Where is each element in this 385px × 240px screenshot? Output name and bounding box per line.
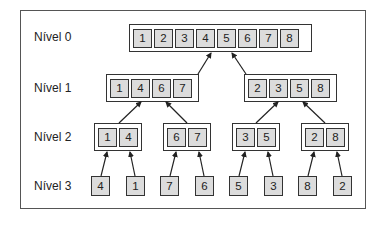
cell: 1 [133,29,152,48]
cell: 4 [196,29,215,48]
leaf-cell: 8 [298,176,317,196]
cell: 1 [110,79,129,98]
cell: 8 [280,29,299,48]
level-0-label: Nível 0 [34,30,71,44]
leaf-cell: 2 [333,176,352,196]
cell: 2 [154,29,173,48]
leaf-cell: 4 [91,176,110,196]
level-2-group-4: 2 8 [301,123,349,151]
cell: 8 [326,128,345,147]
cell: 4 [119,128,138,147]
cell: 6 [238,29,257,48]
cell: 5 [217,29,236,48]
level-2-label: Nível 2 [34,130,71,144]
cell: 3 [269,79,288,98]
level-3-label: Nível 3 [34,179,71,193]
leaf-cell: 5 [229,176,248,196]
leaf-cell: 6 [195,176,214,196]
cell: 5 [290,79,309,98]
cell: 2 [248,79,267,98]
cell: 8 [311,79,330,98]
level-2-group-3: 3 5 [232,123,280,151]
cell: 4 [131,79,150,98]
cell: 6 [152,79,171,98]
cell: 7 [259,29,278,48]
cell: 7 [173,79,192,98]
cell: 3 [236,128,255,147]
cell: 5 [257,128,276,147]
leaf-cell: 1 [126,176,145,196]
level-2-group-2: 6 7 [163,123,211,151]
cell: 2 [305,128,324,147]
cell: 7 [188,128,207,147]
level-2-group-1: 1 4 [94,123,142,151]
cell: 6 [167,128,186,147]
level-1-label: Nível 1 [34,81,71,95]
level-1-group-left: 1 4 6 7 [106,74,199,102]
leaf-cell: 7 [160,176,179,196]
level-0-group: 1 2 3 4 5 6 7 8 [129,24,312,52]
cell: 3 [175,29,194,48]
cell: 1 [98,128,117,147]
leaf-cell: 3 [264,176,283,196]
level-1-group-right: 2 3 5 8 [244,74,337,102]
